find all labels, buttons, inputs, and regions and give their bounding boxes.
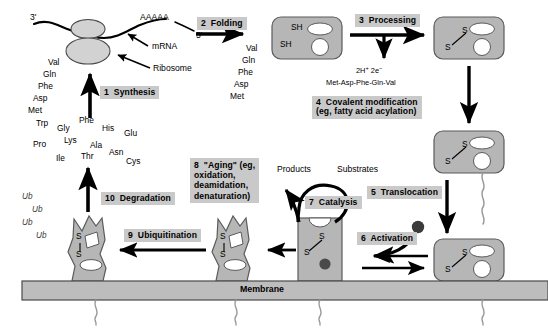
ubiquitin-tag-1: Ub: [22, 192, 32, 201]
disulfide-s-left-anchored: S: [445, 265, 451, 274]
membrane-bar: [22, 281, 548, 300]
disulfide-s-right-anchored: S: [462, 248, 468, 257]
disulfide-s-right-processed: S: [462, 26, 468, 35]
step-8-line-3: deamidation,: [194, 180, 248, 190]
ribosome-icon: [66, 20, 110, 65]
folding-residue-gln: Gln: [242, 56, 255, 65]
step-8-line-1: 8 "Aging" (eg,: [194, 160, 255, 170]
poly-a-label: AAAAA: [140, 13, 169, 23]
step-3-processing-label[interactable]: 3 Processing: [355, 14, 420, 27]
substrates-label: Substrates: [337, 165, 378, 175]
nascent-residue-val: Val: [48, 58, 59, 67]
step-10-degradation-label[interactable]: 10 Degradation: [101, 192, 175, 205]
amino-acid-asn: Asn: [109, 148, 123, 157]
protein-lifecycle-diagram: 3' 5' AAAAA mRNA Ribosome Val Gln Phe As…: [0, 0, 548, 328]
amino-acid-gly: Gly: [57, 124, 70, 133]
five-prime-label: 5': [196, 31, 202, 41]
ribosome-label: Ribosome: [153, 64, 192, 74]
reductant-label: 2H+ 2e−: [356, 65, 382, 76]
disulfide-s-upper-denatured: S: [220, 232, 226, 241]
nascent-residue-asp: Asp: [33, 94, 47, 103]
amino-acid-lys: Lys: [64, 136, 77, 145]
membrane-tail-1: [95, 300, 97, 325]
reductant-charge-plus: +: [365, 65, 368, 71]
ubiquitin-tag-3: Ub: [22, 218, 32, 227]
denatured-protein-shape: [212, 216, 250, 281]
disulfide-s-left-processed: S: [445, 43, 451, 52]
step-5-translocation-label[interactable]: 5 Translocation: [367, 186, 442, 199]
nascent-residue-gln: Gln: [43, 70, 56, 79]
three-prime-label: 3': [30, 13, 36, 23]
membrane-tail-4: [482, 300, 484, 325]
amino-acid-ile: Ile: [56, 154, 65, 163]
acylated-protein-shape: [434, 131, 504, 173]
step-2-folding-label[interactable]: 2 Folding: [197, 17, 247, 30]
amino-acid-his: His: [102, 124, 114, 133]
amino-acid-cys: Cys: [126, 157, 140, 166]
folded-protein-shape: [272, 17, 342, 59]
amino-acid-glu: Glu: [124, 129, 137, 138]
reductant-2e: 2e: [371, 66, 379, 75]
membrane-tail-2: [235, 300, 237, 325]
disulfide-s-left-acylated: S: [445, 157, 451, 166]
step-7-catalysis-label[interactable]: 7 Catalysis: [305, 196, 362, 209]
disulfide-s-left-enzyme: S: [304, 248, 310, 257]
thiol-label-upper: SH: [291, 23, 303, 32]
step-1-synthesis-label[interactable]: 1 Synthesis: [100, 86, 159, 99]
step-6-activation-label[interactable]: 6 Activation: [357, 232, 417, 245]
membrane-tail-3: [319, 300, 321, 325]
mrna-label: mRNA: [152, 42, 177, 52]
disulfide-s-lower-denatured: S: [220, 250, 226, 259]
step-8-line-2: oxidation,: [194, 170, 236, 180]
nascent-residue-met: Met: [28, 106, 42, 115]
cleaved-peptide-label: Met-Asp-Phe-Gln-Val: [326, 79, 396, 87]
step-4-covalent-modification-label[interactable]: 4 Covalent modification(eg, fatty acid a…: [312, 96, 422, 119]
ribosome-pointer-arrow: [118, 55, 150, 68]
ubiquitin-tag-4: Ub: [36, 231, 46, 240]
folding-residue-phe: Phe: [238, 68, 253, 77]
thiol-label-lower: SH: [280, 40, 292, 49]
step-8-line-4: denaturation): [194, 191, 250, 201]
amino-acid-pro: Pro: [33, 140, 46, 149]
processed-protein-shape: [434, 17, 504, 59]
nascent-residue-phe: Phe: [38, 82, 53, 91]
fatty-acid-tail-upper: [482, 173, 484, 224]
amino-acid-phe: Phe: [79, 116, 94, 125]
poly-a-tail-line: [175, 22, 194, 31]
disulfide-s-lower-ubiquitinated: S: [76, 250, 82, 259]
membrane-label: Membrane: [240, 285, 284, 295]
step-9-ubiquitination-label[interactable]: 9 Ubiquitination: [124, 229, 201, 242]
folding-residue-val: Val: [246, 44, 257, 53]
folding-residue-asp: Asp: [234, 80, 248, 89]
disulfide-s-upper-ubiquitinated: S: [76, 232, 82, 241]
reductant-charge-minus: −: [379, 65, 382, 71]
amino-acid-thr: Thr: [81, 152, 94, 161]
ubiquitin-tag-2: Ub: [32, 205, 42, 214]
folding-residue-met: Met: [230, 92, 244, 101]
amino-acid-ala: Ala: [90, 141, 102, 150]
step-4-line-1: 4 Covalent modification: [316, 97, 418, 107]
disulfide-s-right-enzyme: S: [319, 232, 325, 241]
diagram-vector-layer: [0, 0, 548, 328]
step-4-line-2: (eg, fatty acid acylation): [316, 106, 417, 116]
products-label: Products: [277, 165, 311, 175]
processing-arrow: [350, 35, 424, 58]
membrane-anchored-protein-shape: [434, 239, 504, 281]
disulfide-s-right-acylated: S: [462, 140, 468, 149]
mrna-pointer-arrow: [128, 34, 148, 46]
ubiquitinated-protein-shape: [68, 216, 106, 281]
step-8-aging-label[interactable]: 8 "Aging" (eg,oxidation,deamidation,dena…: [190, 158, 259, 203]
amino-acid-trp: Trp: [36, 119, 48, 128]
